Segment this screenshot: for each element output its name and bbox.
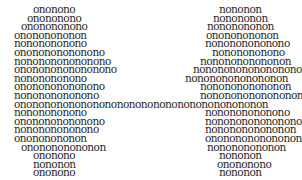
right-text-line: nonononononononon [200, 91, 302, 100]
right-text-line: nononon [219, 168, 262, 177]
left-text-line: ononono [33, 168, 75, 177]
